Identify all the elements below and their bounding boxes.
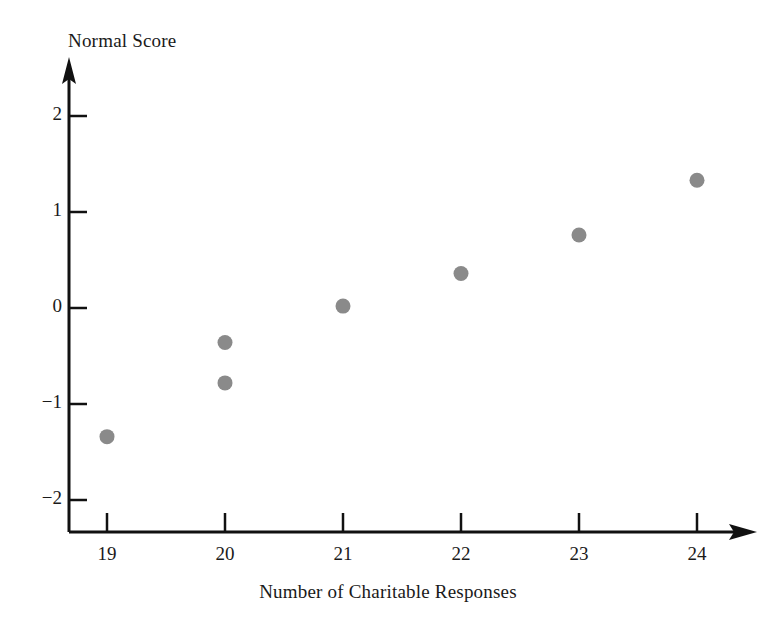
y-axis-tick-label: −1: [22, 391, 62, 413]
x-axis-tick-label: 24: [672, 543, 722, 565]
plot-canvas: [0, 0, 776, 635]
x-axis-tick-label: 23: [554, 543, 604, 565]
data-point: [218, 335, 233, 350]
x-axis-tick-label: 19: [82, 543, 132, 565]
data-point: [218, 375, 233, 390]
y-axis-tick-label: −2: [22, 487, 62, 509]
y-axis-tick-label: 1: [22, 199, 62, 221]
axis-lines: [62, 57, 757, 540]
y-axis-tick-label: 2: [22, 103, 62, 125]
x-axis-ticks: [107, 513, 697, 531]
data-point: [572, 228, 587, 243]
x-axis-tick-label: 20: [200, 543, 250, 565]
x-axis-tick-label: 22: [436, 543, 486, 565]
y-axis-ticks: [70, 116, 87, 500]
y-axis-tick-label: 0: [22, 295, 62, 317]
data-point: [100, 429, 115, 444]
data-point-group: [100, 173, 705, 444]
scatter-plot: Normal Score Number of Charitable Respon…: [0, 0, 776, 635]
data-point: [690, 173, 705, 188]
data-point: [454, 266, 469, 281]
data-point: [336, 299, 351, 314]
x-axis-tick-label: 21: [318, 543, 368, 565]
